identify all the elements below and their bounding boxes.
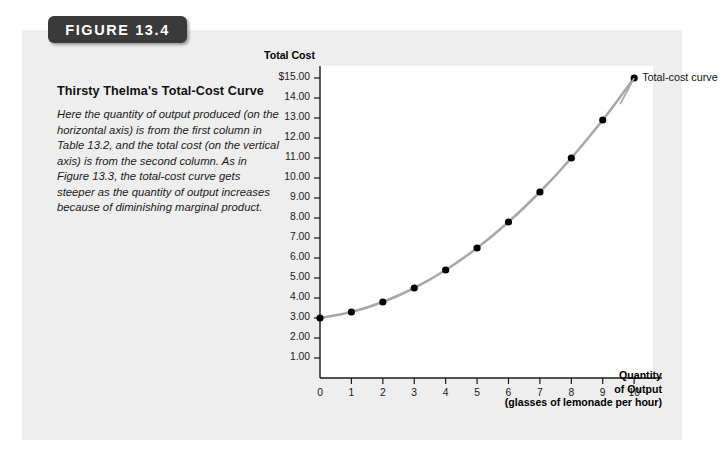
- y-axis-tick-label: 3.00: [258, 311, 310, 322]
- series-label-leader-line: [620, 78, 634, 104]
- x-axis-title-units: (glasses of lemonade per hour): [440, 396, 662, 410]
- data-point: [348, 308, 355, 315]
- total-cost-data-points: [316, 74, 637, 321]
- data-point: [411, 284, 418, 291]
- y-axis-tick-label: 4.00: [258, 291, 310, 302]
- y-axis-tick-label: 7.00: [258, 231, 310, 242]
- data-point: [379, 298, 386, 305]
- figure-number-tab: FIGURE 13.4: [48, 16, 187, 43]
- data-point: [316, 314, 323, 321]
- data-point: [505, 218, 512, 225]
- data-point: [442, 266, 449, 273]
- y-axis-tick-label: 2.00: [258, 331, 310, 342]
- x-axis-title-line2: of Output: [440, 383, 662, 397]
- y-axis-tick-label: $15.00: [258, 71, 310, 82]
- figure-title: Thirsty Thelma's Total-Cost Curve: [57, 84, 279, 98]
- y-axis-tick-label: 14.00: [258, 91, 310, 102]
- x-axis-tick-label: 1: [341, 387, 361, 398]
- y-axis-tick-label: 6.00: [258, 251, 310, 262]
- data-point: [568, 154, 575, 161]
- y-axis-tick-label: 5.00: [258, 271, 310, 282]
- y-axis-tick-label: 9.00: [258, 191, 310, 202]
- y-axis-tick-label: 8.00: [258, 211, 310, 222]
- data-point: [473, 244, 480, 251]
- chart-container: Total Cost Total-cost curve 1.002.003.00…: [262, 46, 662, 396]
- total-cost-curve-line: [320, 78, 634, 318]
- figure-caption-block: Thirsty Thelma's Total-Cost Curve Here t…: [57, 84, 279, 216]
- x-axis-title: Quantity of Output (glasses of lemonade …: [440, 369, 662, 410]
- y-axis-tick-label: 12.00: [258, 131, 310, 142]
- x-axis-tick-label: 0: [310, 387, 330, 398]
- y-axis-tick-label: 13.00: [258, 111, 310, 122]
- data-point: [631, 74, 638, 81]
- series-label: Total-cost curve: [642, 71, 718, 83]
- y-axis-tick-label: 11.00: [258, 151, 310, 162]
- x-axis-tick-label: 3: [404, 387, 424, 398]
- figure-number-label: FIGURE 13.4: [65, 22, 170, 38]
- y-axis-tick-label: 1.00: [258, 351, 310, 362]
- data-point: [536, 188, 543, 195]
- chart-svg: [262, 46, 662, 396]
- data-point: [599, 116, 606, 123]
- figure-caption-text: Here the quantity of output produced (on…: [57, 107, 279, 216]
- y-axis-tick-label: 10.00: [258, 171, 310, 182]
- x-axis-title-line1: Quantity: [440, 369, 662, 383]
- x-axis-tick-label: 2: [373, 387, 393, 398]
